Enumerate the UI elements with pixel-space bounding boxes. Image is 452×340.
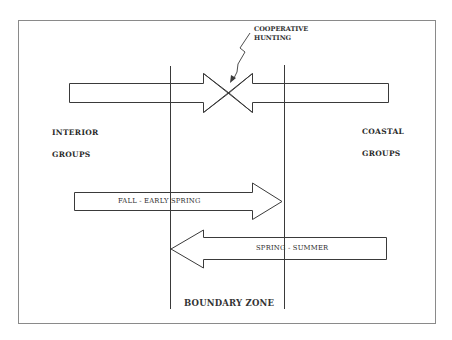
- fall-early-spring-label: FALL - EARLY SPRING: [118, 197, 201, 205]
- coastal-label-line2: GROUPS: [362, 149, 401, 158]
- spring-summer-label: SPRING - SUMMER: [256, 244, 328, 252]
- cooperative-hunting-label: COOPERATIVE HUNTING: [254, 25, 308, 43]
- converging-arrow-from-interior: [70, 74, 230, 113]
- cooperative-hunting-line2: HUNTING: [254, 34, 308, 43]
- diagram-canvas: [0, 0, 452, 340]
- cooperative-hunting-line1: COOPERATIVE: [254, 25, 308, 34]
- diagram-frame: [19, 21, 436, 324]
- interior-label-line2: GROUPS: [52, 150, 91, 159]
- boundary-zone-label: BOUNDARY ZONE: [184, 298, 274, 308]
- converging-arrow-from-coastal: [229, 74, 389, 113]
- coastal-label-line1: COASTAL: [362, 127, 404, 136]
- lightning-pointer-icon: [233, 33, 250, 80]
- interior-label-line1: INTERIOR: [52, 128, 99, 137]
